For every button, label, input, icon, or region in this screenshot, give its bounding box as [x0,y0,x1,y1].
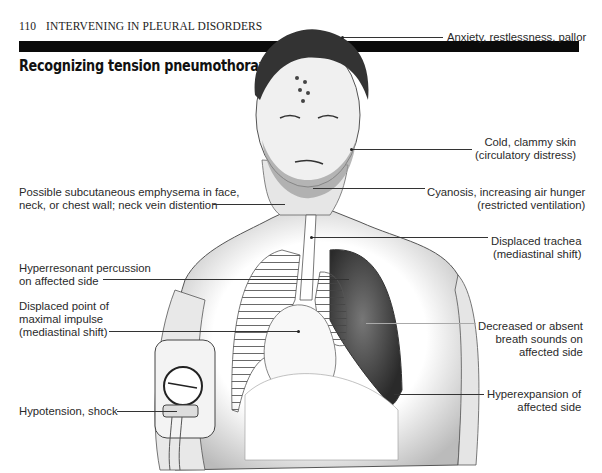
callout-anxiety: Anxiety, restlessness, pallor [447,31,586,44]
leader-hypotension [117,411,177,412]
leader-dot [341,36,344,39]
leader-dot [310,236,313,239]
leader-breath-sounds [366,323,476,324]
leader-trachea [312,237,488,238]
leader-pmi [109,331,299,332]
leader-hyperresonant [103,279,349,280]
callout-breath-sounds: Decreased or absent breath sounds on aff… [478,320,583,359]
callout-emphysema: Possible subcutaneous emphysema in face,… [19,186,239,212]
leader-anxiety [343,37,443,38]
leader-dot [350,148,353,151]
leader-cold-skin [352,149,472,150]
leader-dot [297,330,300,333]
callout-pmi: Displaced point of maximal impulse (medi… [19,300,109,339]
callout-cold-skin: Cold, clammy skin (circulatory distress) [475,136,576,162]
callout-hyperexpansion: Hyperexpansion of affected side [487,388,581,414]
callout-hypotension: Hypotension, shock [19,405,118,418]
leader-cyanosis [313,188,425,189]
callout-hyperresonant: Hyperresonant percussion on affected sid… [19,262,151,288]
callout-trachea: Displaced trachea (mediastinal shift) [491,235,581,261]
callout-cyanosis: Cyanosis, increasing air hunger (restric… [427,186,585,212]
leader-emphysema [213,204,285,205]
leader-hyperexpansion [394,394,484,395]
